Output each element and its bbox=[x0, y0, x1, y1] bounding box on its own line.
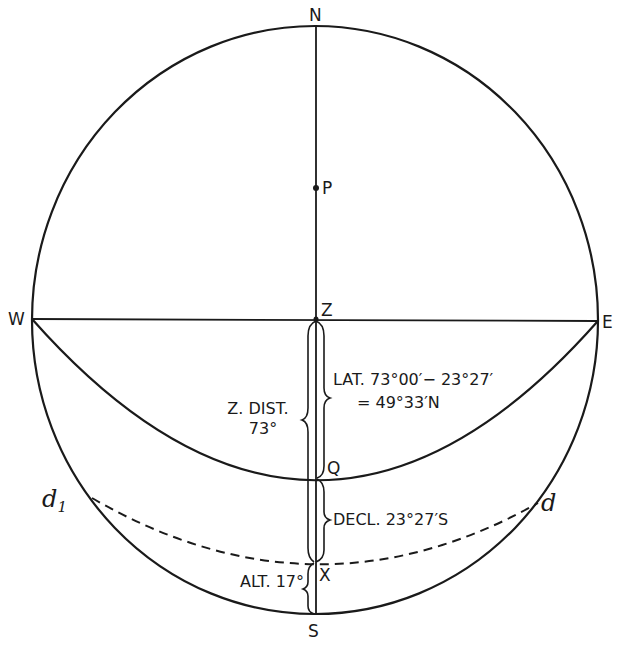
label-d: d bbox=[541, 489, 556, 517]
label-zenith: Z bbox=[321, 300, 333, 320]
label-equator-point: Q bbox=[327, 458, 340, 478]
label-star-position: X bbox=[319, 565, 331, 585]
label-west: W bbox=[8, 309, 25, 329]
declination-parallel-arc bbox=[92, 498, 538, 564]
label-d1: d1 bbox=[42, 485, 67, 516]
altitude-label: ALT. 17° bbox=[240, 572, 304, 591]
declination-brace bbox=[316, 479, 330, 562]
zenith-point bbox=[314, 317, 319, 322]
label-south: S bbox=[308, 621, 319, 641]
pole-point bbox=[313, 185, 319, 191]
equator-arc bbox=[32, 319, 597, 480]
latitude-brace bbox=[316, 321, 330, 478]
latitude-label: LAT. 73°00′− 23°27′ bbox=[333, 370, 494, 389]
altitude-brace bbox=[303, 563, 314, 614]
label-pole: P bbox=[322, 178, 332, 198]
celestial-sphere-diagram: N P W E Z Q X S d1 d Z. DIST. 73° LAT. 7… bbox=[0, 0, 622, 657]
label-north: N bbox=[309, 5, 322, 25]
zenith-distance-label: Z. DIST. bbox=[227, 399, 288, 418]
declination-label: DECL. 23°27′S bbox=[333, 510, 448, 529]
latitude-result: = 49°33′N bbox=[357, 393, 440, 412]
zenith-distance-brace bbox=[302, 321, 316, 562]
zenith-distance-value: 73° bbox=[249, 419, 277, 438]
label-east: E bbox=[602, 312, 613, 332]
